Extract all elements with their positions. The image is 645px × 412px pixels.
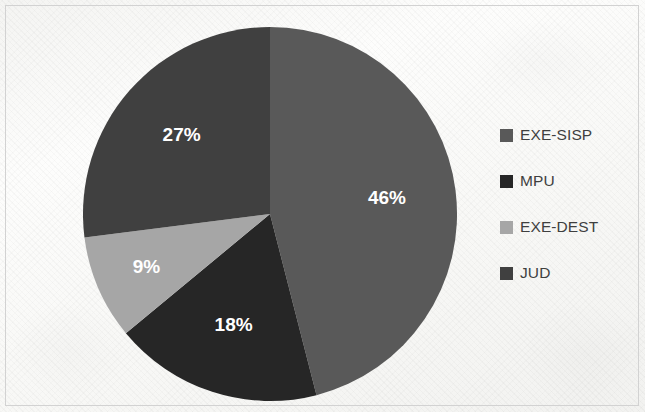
legend-swatch-icon [500, 221, 513, 234]
legend-label-jud: JUD [520, 264, 550, 282]
legend-item-mpu[interactable]: MPU [500, 158, 640, 204]
legend-label-mpu: MPU [520, 172, 555, 190]
chart-legend: EXE-SISP MPU EXE-DEST JUD [500, 112, 640, 296]
legend-swatch-icon [500, 129, 513, 142]
legend-item-exe-dest[interactable]: EXE-DEST [500, 204, 640, 250]
legend-swatch-icon [500, 175, 513, 188]
legend-label-exe-dest: EXE-DEST [520, 218, 598, 236]
legend-swatch-icon [500, 267, 513, 280]
legend-item-exe-sisp[interactable]: EXE-SISP [500, 112, 640, 158]
pie-slice-value-exe-dest: 9% [133, 256, 161, 277]
pie-slice-value-mpu: 18% [215, 314, 253, 335]
pie-slice-value-exe-sisp: 46% [368, 187, 406, 208]
pie-slice-value-jud: 27% [163, 124, 201, 145]
legend-label-exe-sisp: EXE-SISP [520, 126, 592, 144]
legend-item-jud[interactable]: JUD [500, 250, 640, 296]
pie-chart-figure: 46%18%9%27% EXE-SISP MPU EXE-DEST JUD [0, 0, 645, 412]
pie-slices [83, 27, 457, 401]
